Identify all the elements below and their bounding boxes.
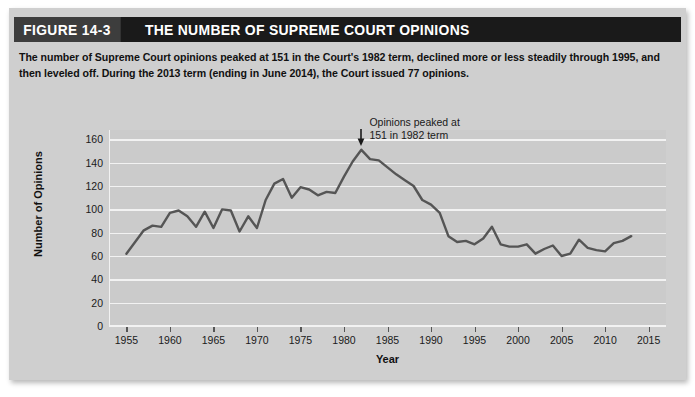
- peak-annotation: Opinions peaked at 151 in 1982 term: [369, 116, 459, 142]
- figure-caption: The number of Supreme Court opinions pea…: [19, 50, 679, 81]
- figure-title: THE NUMBER OF SUPREME COURT OPINIONS: [130, 17, 470, 42]
- x-axis-tick-label: 1955: [104, 334, 148, 346]
- x-axis-tick-label: 2005: [540, 334, 584, 346]
- x-axis-tick: [605, 327, 606, 332]
- x-axis-tick: [257, 327, 258, 332]
- x-axis-tick-label: 1975: [278, 334, 322, 346]
- x-axis-tick: [300, 327, 301, 332]
- figure-number-label: FIGURE 14-3: [14, 17, 121, 42]
- x-axis-tick-label: 1970: [235, 334, 279, 346]
- figure-panel: FIGURE 14-3 THE NUMBER OF SUPREME COURT …: [9, 8, 686, 380]
- x-axis-tick: [344, 327, 345, 332]
- down-arrow-icon: [356, 129, 366, 146]
- x-axis-tick: [518, 327, 519, 332]
- x-axis-tick: [388, 327, 389, 332]
- x-axis-tick-label: 1980: [322, 334, 366, 346]
- x-axis-tick-label: 1960: [148, 334, 192, 346]
- y-axis-tick-label: 80: [57, 227, 103, 239]
- y-axis-tick-label: 140: [57, 157, 103, 169]
- x-axis-tick: [649, 327, 650, 332]
- x-axis-tick-label: 2010: [583, 334, 627, 346]
- x-axis-tick-label: 2015: [627, 334, 671, 346]
- x-axis-tick: [431, 327, 432, 332]
- chart-area: Number of Opinions 020406080100120140160…: [9, 103, 686, 368]
- x-axis-tick-label: 1990: [409, 334, 453, 346]
- y-axis-tick-label: 100: [57, 203, 103, 215]
- y-axis-tick-label: 20: [57, 297, 103, 309]
- line-series: [109, 130, 666, 326]
- x-axis-tick: [213, 327, 214, 332]
- x-axis: 1955196019651970197519801985199019952000…: [109, 327, 666, 353]
- x-axis-tick: [562, 327, 563, 332]
- y-axis-tick-labels: 020406080100120140160: [55, 130, 103, 326]
- y-axis-tick-label: 40: [57, 273, 103, 285]
- x-axis-title: Year: [109, 353, 666, 365]
- x-axis-tick: [170, 327, 171, 332]
- y-axis-tick-label: 160: [57, 133, 103, 145]
- x-axis-tick: [126, 327, 127, 332]
- y-axis-tick-label: 60: [57, 250, 103, 262]
- x-axis-tick-label: 1965: [191, 334, 235, 346]
- x-axis-tick-label: 1995: [453, 334, 497, 346]
- x-axis-tick: [475, 327, 476, 332]
- y-axis-title: Number of Opinions: [32, 129, 44, 279]
- y-axis-tick-label: 120: [57, 180, 103, 192]
- peak-annotation-line1: Opinions peaked at: [369, 116, 459, 129]
- x-axis-tick-label: 1985: [366, 334, 410, 346]
- y-axis-tick-label: 0: [57, 320, 103, 332]
- x-axis-tick-label: 2000: [496, 334, 540, 346]
- plot-frame: Opinions peaked at 151 in 1982 term: [109, 130, 666, 326]
- peak-annotation-line2: 151 in 1982 term: [369, 129, 459, 142]
- figure-header-bar: FIGURE 14-3 THE NUMBER OF SUPREME COURT …: [14, 17, 681, 42]
